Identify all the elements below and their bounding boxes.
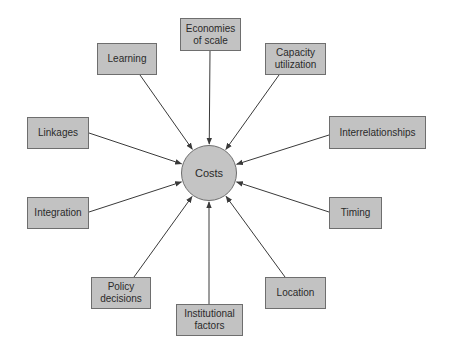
arrow-timing-to-costs [237, 182, 329, 212]
driver-box-learning: Learning [97, 43, 157, 75]
driver-label: Capacity utilization [275, 47, 317, 71]
cost-drivers-diagram: Economies of scaleLearningCapacity utili… [0, 0, 449, 345]
driver-box-integration: Integration [27, 197, 89, 229]
costs-label: Costs [195, 167, 223, 179]
driver-box-interrelationships: Interrelationships [329, 116, 426, 149]
driver-box-linkages: Linkages [27, 117, 89, 149]
driver-label: Institutional factors [184, 308, 235, 332]
driver-box-institutional-factors: Institutional factors [176, 304, 243, 336]
driver-label: Linkages [38, 127, 78, 139]
driver-label: Interrelationships [339, 127, 415, 139]
costs-node: Costs [181, 145, 237, 201]
driver-label: Integration [34, 207, 81, 219]
arrow-interrelationships-to-costs [237, 135, 329, 164]
arrow-linkages-to-costs [89, 133, 181, 164]
driver-box-timing: Timing [329, 197, 382, 229]
driver-label: Timing [341, 207, 371, 219]
arrow-integration-to-costs [89, 182, 181, 212]
arrow-learning-to-costs [140, 75, 192, 149]
arrow-economies-of-scale-to-costs [209, 51, 210, 144]
driver-box-location: Location [265, 277, 326, 309]
driver-label: Learning [108, 53, 147, 65]
arrow-location-to-costs [226, 196, 285, 277]
driver-label: Location [277, 287, 315, 299]
driver-label: Economies of scale [186, 23, 235, 47]
arrow-capacity-utilization-to-costs [226, 75, 279, 149]
driver-label: Policy decisions [100, 281, 142, 305]
driver-box-policy-decisions: Policy decisions [91, 277, 151, 309]
driver-box-economies-of-scale: Economies of scale [180, 18, 241, 51]
driver-box-capacity-utilization: Capacity utilization [265, 43, 326, 75]
arrow-policy-decisions-to-costs [134, 197, 192, 277]
